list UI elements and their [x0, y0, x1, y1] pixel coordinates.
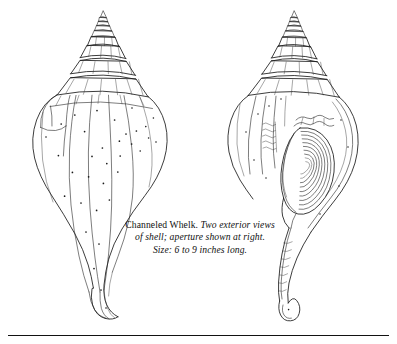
caption-line-3: Size: 6 to 9 inches long.: [98, 244, 302, 256]
caption-line-2: of shell; aperture shown at right.: [98, 231, 302, 243]
right-shell-figure: [228, 11, 358, 321]
figure-caption: Channeled Whelk. Two exterior views of s…: [98, 219, 302, 256]
left-shell-figure: [33, 11, 167, 319]
shell-illustrations: [0, 0, 397, 344]
bottom-rule: [8, 335, 389, 336]
species-name: Channeled Whelk.: [125, 219, 198, 230]
illustration-plate: Channeled Whelk. Two exterior views of s…: [0, 0, 397, 344]
caption-line-1-italic: Two exterior views: [201, 219, 275, 230]
caption-line-1: Channeled Whelk. Two exterior views: [98, 219, 302, 231]
